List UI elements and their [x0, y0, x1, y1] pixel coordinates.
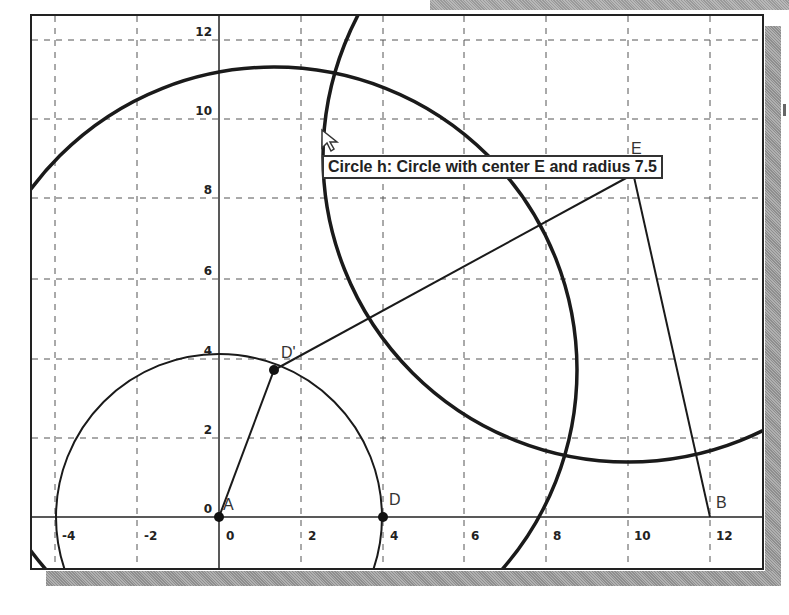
label-d-prime: D' [281, 344, 296, 361]
edge-mark [783, 104, 786, 116]
label-a: A [223, 496, 234, 513]
y-tick-labels: 12 10 8 6 4 2 0 [195, 25, 212, 516]
mouse-cursor-icon [320, 128, 342, 154]
circle-h[interactable] [323, 16, 764, 462]
svg-text:6: 6 [471, 529, 479, 543]
svg-text:-4: -4 [62, 529, 75, 543]
svg-text:4: 4 [204, 344, 212, 358]
svg-text:12: 12 [716, 529, 733, 543]
point-d[interactable] [378, 512, 388, 522]
segment-e-b [634, 177, 710, 517]
segment-a-d-prime [219, 370, 274, 517]
svg-text:2: 2 [204, 423, 212, 437]
window-shadow-top [430, 0, 789, 10]
svg-text:10: 10 [634, 529, 651, 543]
label-b: B [716, 494, 727, 511]
label-d: D [389, 491, 401, 508]
window-shadow-right [765, 26, 781, 584]
x-tick-labels: -4 -2 0 2 4 6 8 10 12 [62, 529, 733, 543]
svg-text:4: 4 [390, 529, 398, 543]
circle-center-d-prime[interactable] [32, 67, 577, 570]
point-a[interactable] [214, 512, 224, 522]
svg-text:0: 0 [226, 529, 234, 543]
svg-text:0: 0 [204, 502, 212, 516]
svg-text:8: 8 [553, 529, 561, 543]
svg-text:8: 8 [204, 183, 212, 197]
window-shadow-bottom [46, 571, 781, 586]
svg-text:-2: -2 [144, 529, 157, 543]
geometry-canvas[interactable]: -4 -2 0 2 4 6 8 10 12 12 10 8 6 4 2 0 A … [32, 16, 764, 570]
svg-text:2: 2 [308, 529, 316, 543]
svg-text:10: 10 [195, 104, 212, 118]
point-d-prime[interactable] [269, 365, 279, 375]
graphics-view[interactable]: -4 -2 0 2 4 6 8 10 12 12 10 8 6 4 2 0 A … [30, 14, 764, 570]
svg-text:6: 6 [204, 264, 212, 278]
tooltip: Circle h: Circle with center E and radiu… [322, 155, 663, 179]
svg-text:12: 12 [195, 25, 212, 39]
